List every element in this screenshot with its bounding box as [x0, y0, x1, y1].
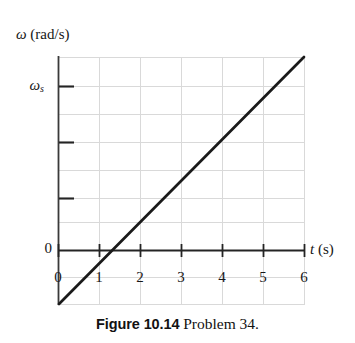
caption-problem-text: Problem 34. [183, 315, 259, 332]
x-axis-title: t (s) [310, 242, 334, 257]
figure-caption: Figure 10.14 Problem 34. [0, 315, 355, 333]
x-tick-label-6: 6 [292, 270, 316, 285]
x-tick-label-1: 1 [87, 270, 111, 285]
y-axis-symbol: ω [16, 26, 27, 42]
x-tick-label-0: 0 [46, 270, 70, 285]
x-axis-symbol: t [310, 241, 314, 257]
figure-container: ω (rad/s) t (s) ωs 0 0 1 2 3 4 5 6 Figur… [0, 0, 355, 343]
x-tick-label-4: 4 [210, 270, 234, 285]
x-tick-label-2: 2 [128, 270, 152, 285]
caption-figure-number: Figure 10.14 [96, 316, 179, 332]
x-tick-label-5: 5 [251, 270, 275, 285]
y-tick-label-omega-s: ωs [10, 78, 44, 94]
x-tick-label-3: 3 [169, 270, 193, 285]
y-axis-title: ω (rad/s) [16, 27, 70, 42]
x-axis-units: (s) [318, 241, 334, 257]
y-axis-ticks [59, 87, 74, 199]
graph-svg [0, 0, 355, 312]
y-axis-units: (rad/s) [30, 26, 69, 42]
plot-area: ω (rad/s) t (s) ωs 0 0 1 2 3 4 5 6 [0, 0, 355, 312]
y-tick-label-zero: 0 [18, 241, 52, 256]
